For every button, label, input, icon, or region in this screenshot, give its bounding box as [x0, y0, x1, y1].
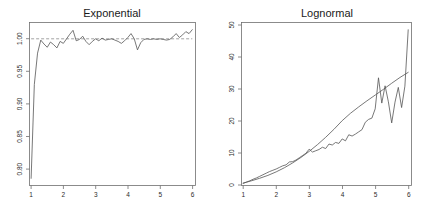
x-axis-ticks-lognormal	[243, 186, 409, 190]
x-tick-label-2: 2	[274, 191, 278, 198]
y-tick-label-20: 20	[228, 117, 235, 125]
plot-frame-exponential	[30, 23, 196, 186]
y-tick-label-0-95: 0.95	[16, 65, 23, 78]
series-line-empirical-exponential	[31, 30, 192, 179]
series-line-empirical-lognormal	[243, 30, 408, 184]
y-tick-label-10: 10	[228, 149, 235, 157]
x-tick-label-1: 1	[241, 191, 245, 198]
x-tick-label-6: 6	[407, 191, 411, 198]
series-line-theoretical-lognormal	[243, 72, 408, 183]
y-tick-label-50: 50	[228, 21, 235, 29]
x-tick-label-1: 1	[29, 191, 33, 198]
x-tick-label-6: 6	[191, 191, 195, 198]
y-axis-ticks-exponential	[26, 39, 30, 169]
x-tick-label-4: 4	[341, 191, 345, 198]
x-tick-label-2: 2	[62, 191, 66, 198]
plot-panel-exponential: Exponential 1.00 0.95 0.90 0.85 0.80	[0, 0, 213, 211]
y-tick-label-0-90: 0.90	[16, 97, 23, 110]
x-tick-label-3: 3	[94, 191, 98, 198]
y-tick-label-1-00: 1.00	[16, 32, 23, 45]
y-tick-label-40: 40	[228, 53, 235, 61]
y-axis-ticks-lognormal	[238, 25, 242, 185]
plot-panel-lognormal: Lognormal 50 40 30 20 10 0	[213, 0, 426, 211]
plot-frame-lognormal	[242, 23, 412, 186]
x-tick-label-3: 3	[308, 191, 312, 198]
x-axis-ticks-exponential	[31, 186, 193, 190]
figure-container: Exponential 1.00 0.95 0.90 0.85 0.80	[0, 0, 426, 211]
x-tick-label-5: 5	[374, 191, 378, 198]
y-tick-label-0: 0	[228, 183, 235, 187]
plot-title-lognormal: Lognormal	[301, 7, 353, 19]
y-tick-label-0-85: 0.85	[16, 130, 23, 143]
y-tick-label-0-80: 0.80	[16, 162, 23, 175]
plot-title-exponential: Exponential	[83, 7, 141, 19]
x-tick-label-5: 5	[158, 191, 162, 198]
x-tick-label-4: 4	[126, 191, 130, 198]
y-tick-label-30: 30	[228, 85, 235, 93]
